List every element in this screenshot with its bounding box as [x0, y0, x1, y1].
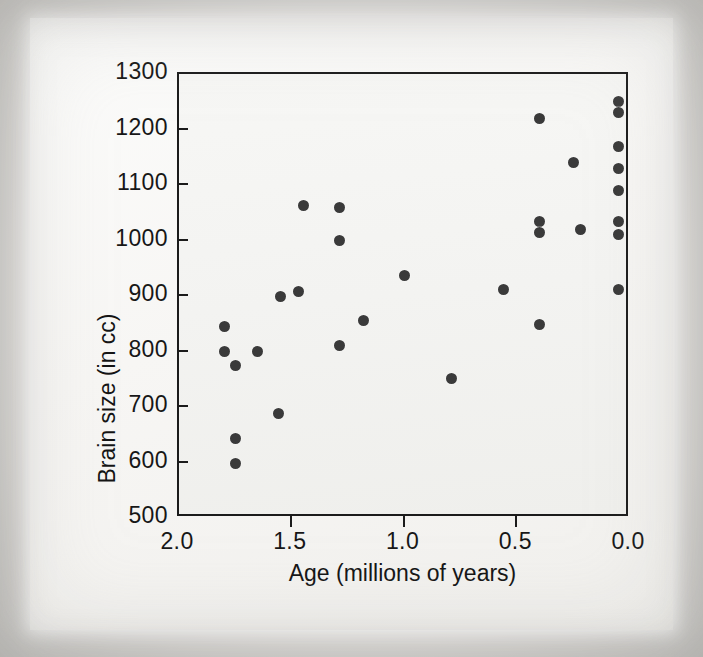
data-point — [334, 340, 345, 351]
plot-frame — [177, 72, 628, 516]
y-axis-tick-label: 500 — [78, 502, 168, 529]
data-point — [575, 224, 586, 235]
data-point — [568, 157, 579, 168]
y-axis-title-container: Brain size (in cc) — [75, 160, 105, 460]
data-point — [275, 291, 286, 302]
y-axis-tick — [177, 405, 188, 407]
data-point — [273, 408, 284, 419]
data-point — [399, 270, 410, 281]
y-axis-tick — [177, 183, 188, 185]
data-point — [613, 107, 624, 118]
y-axis-tick — [177, 239, 188, 241]
data-point — [219, 321, 230, 332]
x-axis-tick-label: 1.0 — [363, 528, 443, 555]
data-point — [613, 141, 624, 152]
data-point — [230, 458, 241, 469]
data-point — [298, 200, 309, 211]
data-point — [613, 185, 624, 196]
data-point — [446, 373, 457, 384]
data-point — [334, 202, 345, 213]
data-point — [252, 346, 263, 357]
data-point — [613, 96, 624, 107]
data-point — [613, 229, 624, 240]
y-axis-tick — [177, 294, 188, 296]
plot-data-area — [179, 74, 626, 514]
data-point — [498, 284, 509, 295]
data-point — [613, 284, 624, 295]
y-axis-tick-label: 1200 — [78, 114, 168, 141]
data-point — [534, 216, 545, 227]
x-axis-tick — [290, 516, 292, 527]
y-axis-tick — [177, 128, 188, 130]
y-axis-tick — [177, 350, 188, 352]
data-point — [219, 346, 230, 357]
data-point — [230, 433, 241, 444]
figure-canvas: 1300120011001000900800700600500 Brain si… — [0, 0, 703, 657]
y-axis-tick — [177, 461, 188, 463]
x-axis-tick-label: 0.0 — [588, 528, 668, 555]
data-point — [293, 286, 304, 297]
x-axis-tick-label: 2.0 — [137, 528, 217, 555]
data-point — [534, 227, 545, 238]
data-point — [230, 360, 241, 371]
y-axis-tick-label: 1300 — [78, 58, 168, 85]
x-axis-title: Age (millions of years) — [177, 560, 628, 587]
data-point — [358, 315, 369, 326]
data-point — [534, 319, 545, 330]
data-point — [334, 235, 345, 246]
data-point — [613, 163, 624, 174]
x-axis-tick-label: 0.5 — [475, 528, 555, 555]
y-axis-title: Brain size (in cc) — [94, 249, 121, 549]
x-axis-tick-label: 1.5 — [250, 528, 330, 555]
x-axis-tick — [403, 516, 405, 527]
data-point — [534, 113, 545, 124]
x-axis-tick — [515, 516, 517, 527]
data-point — [613, 216, 624, 227]
